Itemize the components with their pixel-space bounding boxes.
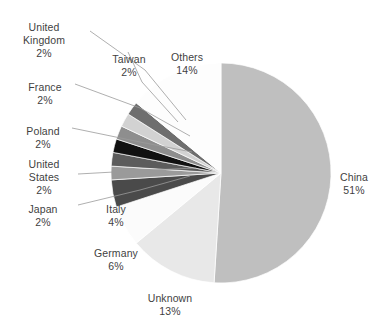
- slice-label-taiwan-name: Taiwan: [112, 53, 145, 65]
- slice-label-others-name: Others: [171, 51, 203, 63]
- slice-label-germany-pct: 6%: [76, 260, 156, 273]
- slice-label-italy-pct: 4%: [88, 216, 144, 229]
- slice-label-japan-name: Japan: [28, 203, 57, 215]
- pie-chart: United Kingdom 2% France 2% Poland 2% Un…: [0, 0, 380, 324]
- slice-label-taiwan-pct: 2%: [100, 66, 158, 79]
- slice-label-poland-name: Poland: [26, 125, 59, 137]
- slice-label-china: China 51%: [330, 158, 378, 210]
- slice-label-unknown: Unknown 13%: [130, 279, 210, 324]
- slice-label-taiwan: Taiwan 2%: [100, 40, 158, 92]
- slice-label-france-name: France: [28, 81, 61, 93]
- slice-label-unknown-pct: 13%: [130, 305, 210, 318]
- slice-label-germany-name: Germany: [94, 247, 138, 259]
- slice-label-united-states-name: United States: [29, 158, 60, 183]
- slice-label-china-name: China: [340, 171, 368, 183]
- slice-label-united-kingdom-pct: 2%: [6, 47, 82, 60]
- slice-label-france-pct: 2%: [10, 94, 80, 107]
- slice-label-united-kingdom: United Kingdom 2%: [6, 8, 82, 73]
- pie-slice-china[interactable]: [214, 63, 331, 283]
- slice-label-japan-pct: 2%: [10, 216, 76, 229]
- slice-label-others-pct: 14%: [158, 64, 216, 77]
- slice-label-united-kingdom-name: United Kingdom: [23, 21, 65, 46]
- slice-label-others: Others 14%: [158, 38, 216, 90]
- slice-label-unknown-name: Unknown: [148, 292, 192, 304]
- slice-label-italy-name: Italy: [106, 203, 126, 215]
- slice-label-china-pct: 51%: [330, 184, 378, 197]
- slice-label-japan: Japan 2%: [10, 190, 76, 242]
